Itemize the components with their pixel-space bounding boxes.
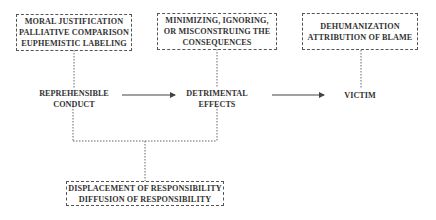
- responsibility-box: DISPLACEMENT OF RESPONSIBILITY DIFFUSION…: [66, 181, 224, 206]
- box-line: PALLIATIVE COMPARISON: [19, 27, 129, 38]
- node-detrimental-effects: DETRIMENTAL EFFECTS: [186, 88, 247, 110]
- minimizing-consequences-box: MINIMIZING, IGNORING, OR MISCONSTRUING T…: [157, 13, 277, 50]
- box-line: MORAL JUSTIFICATION: [25, 16, 123, 27]
- node-line: VICTIM: [344, 90, 375, 101]
- box-line: DISPLACEMENT OF RESPONSIBILITY: [68, 183, 222, 194]
- box-line: DEHUMANIZATION: [320, 21, 400, 32]
- box-line: MINIMIZING, IGNORING,: [165, 15, 268, 26]
- node-victim: VICTIM: [344, 90, 375, 101]
- moral-justification-box: MORAL JUSTIFICATION PALLIATIVE COMPARISO…: [16, 14, 132, 51]
- box-line: EUPHEMISTIC LABELING: [21, 38, 127, 49]
- box-line: DIFFUSION OF RESPONSIBILITY: [79, 194, 212, 205]
- node-line: EFFECTS: [186, 99, 247, 110]
- box-line: OR MISCONSTRUING THE: [164, 26, 271, 37]
- node-line: DETRIMENTAL: [186, 88, 247, 99]
- box-line: ATTRIBUTION OF BLAME: [308, 32, 413, 43]
- dehumanization-box: DEHUMANIZATION ATTRIBUTION OF BLAME: [302, 13, 418, 50]
- node-line: REPREHENSIBLE: [39, 88, 109, 99]
- box-line: CONSEQUENCES: [183, 37, 252, 48]
- node-reprehensible-conduct: REPREHENSIBLE CONDUCT: [39, 88, 109, 110]
- node-line: CONDUCT: [39, 99, 109, 110]
